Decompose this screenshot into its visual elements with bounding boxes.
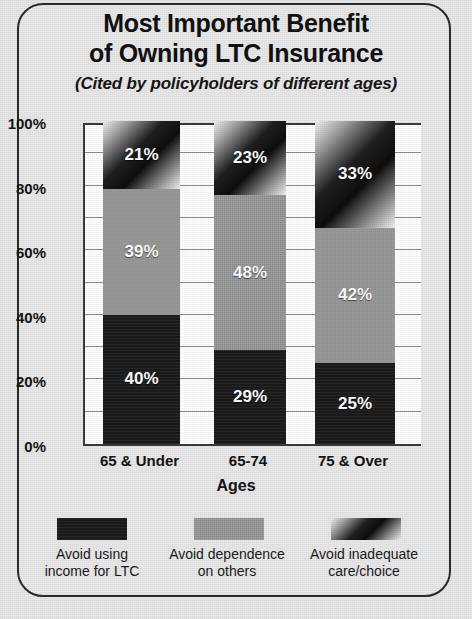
- bar-segment: 39%: [103, 189, 180, 315]
- legend-swatch: [331, 518, 401, 540]
- y-axis-tick-label: 40%: [16, 308, 46, 325]
- bar-segment-value: 21%: [124, 145, 158, 165]
- legend-label: Avoid dependenceon others: [163, 546, 291, 580]
- bar-segment-value: 42%: [338, 285, 372, 305]
- x-axis-title: Ages: [0, 477, 472, 495]
- y-axis-tick-label: 100%: [8, 115, 46, 132]
- legend-label-line-1: Avoid inadequate: [300, 546, 428, 563]
- bar-2: 29%48%23%: [214, 121, 286, 444]
- bar-segment: 42%: [315, 228, 395, 364]
- bar-segment-value: 39%: [124, 242, 158, 262]
- bar-segment-value: 25%: [338, 394, 372, 414]
- bar-segment: 48%: [214, 195, 286, 350]
- legend-label-line-1: Avoid using: [28, 546, 156, 563]
- x-axis-label: 65-74: [192, 452, 304, 469]
- title-line-2: of Owning LTC Insurance: [0, 38, 472, 68]
- chart-subtitle: (Cited by policyholders of different age…: [0, 74, 472, 94]
- y-axis-tick-label: 60%: [16, 244, 46, 261]
- bar-segment: 25%: [315, 363, 395, 444]
- plot-area: 40%39%21%29%48%23%25%42%33%: [83, 123, 421, 446]
- bar-segment: 40%: [103, 315, 180, 444]
- legend-label-line-2: income for LTC: [28, 563, 156, 580]
- bar-segment: 23%: [214, 121, 286, 195]
- bar-segment-value: 48%: [233, 263, 267, 283]
- x-axis-label: 75 & Over: [293, 452, 413, 469]
- bar-segment-value: 33%: [338, 164, 372, 184]
- legend-label: Avoid inadequatecare/choice: [300, 546, 428, 580]
- legend-label-line-1: Avoid dependence: [163, 546, 291, 563]
- bar-1: 40%39%21%: [103, 121, 180, 444]
- y-axis-tick-label: 80%: [16, 179, 46, 196]
- legend-swatch: [194, 518, 264, 540]
- bar-segment: 21%: [103, 121, 180, 189]
- bar-segment: 29%: [214, 350, 286, 444]
- bar-segment-value: 40%: [124, 369, 158, 389]
- bar-segment-value: 29%: [233, 387, 267, 407]
- legend-label: Avoid usingincome for LTC: [28, 546, 156, 580]
- x-axis-label: 65 & Under: [81, 452, 198, 469]
- chart-title-block: Most Important Benefit of Owning LTC Ins…: [0, 8, 472, 94]
- bar-segment: 33%: [315, 121, 395, 228]
- title-line-1: Most Important Benefit: [0, 8, 472, 38]
- y-axis-tick-label: 20%: [16, 373, 46, 390]
- bar-segment-value: 23%: [233, 148, 267, 168]
- y-axis-tick-label: 0%: [24, 438, 46, 455]
- bar-3: 25%42%33%: [315, 121, 395, 444]
- legend-label-line-2: care/choice: [300, 563, 428, 580]
- legend-label-line-2: on others: [163, 563, 291, 580]
- legend-swatch: [57, 518, 127, 540]
